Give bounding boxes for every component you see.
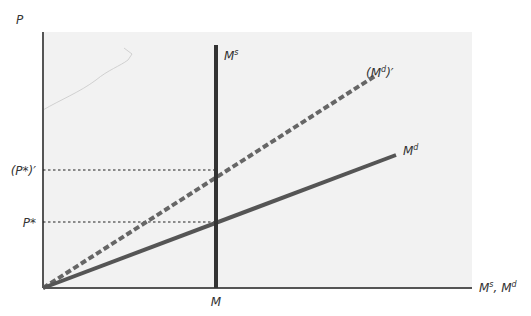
p-star-prime-label: (P*)′ [11, 164, 37, 178]
x-axis-label: Ms, Md [479, 280, 518, 295]
x-tick-m-label: M [211, 295, 222, 309]
money-market-diagram: P Ms (Md)′ Md (P*)′ P* M Ms, Md [0, 0, 531, 316]
plot-area [43, 32, 472, 288]
money-demand-shifted-label: (Md)′ [366, 65, 394, 80]
p-star-label: P* [23, 216, 36, 230]
y-axis-label: P [16, 13, 24, 27]
